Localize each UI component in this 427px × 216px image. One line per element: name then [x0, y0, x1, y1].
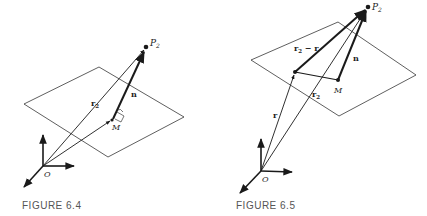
- label-r: r: [273, 110, 278, 120]
- vector-r2: [43, 50, 144, 166]
- point-m: [110, 118, 113, 121]
- axes-icon: [240, 139, 292, 193]
- diagram-canvas: P2 r2 n M O FIGURE 6.4 P2 r2 − r n M r2: [0, 0, 427, 216]
- point-r: [293, 70, 297, 74]
- label-p2: P2: [371, 2, 382, 13]
- point-p2: [144, 45, 149, 50]
- label-origin: O: [44, 170, 51, 179]
- figure-6-5: P2 r2 − r n M r2 r O FIGURE 6.5: [236, 2, 416, 211]
- label-r2-minus-r: r2 − r: [294, 43, 319, 54]
- label-n: n: [353, 53, 359, 63]
- plane: [251, 22, 416, 116]
- vector-n: [113, 52, 144, 119]
- plane: [24, 67, 184, 157]
- vector-r: [261, 75, 294, 171]
- axes-icon: [24, 135, 74, 187]
- label-r2: r2: [91, 98, 99, 109]
- label-n: n: [131, 89, 137, 99]
- segment-point-m: [295, 72, 338, 80]
- label-m: M: [111, 123, 121, 132]
- figure-caption: FIGURE 6.4: [22, 200, 81, 211]
- figure-6-4: P2 r2 n M O FIGURE 6.4: [22, 38, 184, 211]
- label-r2: r2: [312, 89, 320, 100]
- figure-caption: FIGURE 6.5: [236, 200, 295, 211]
- label-origin: O: [262, 175, 269, 184]
- label-m: M: [333, 86, 343, 95]
- point-p2: [366, 5, 371, 10]
- label-p2: P2: [149, 38, 160, 49]
- point-m: [336, 78, 340, 82]
